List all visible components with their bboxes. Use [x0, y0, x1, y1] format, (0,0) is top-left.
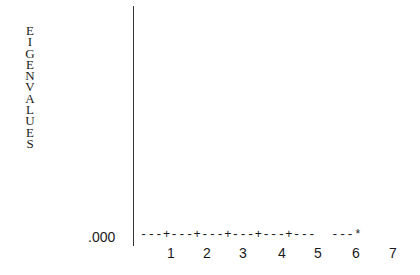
data-line: ---+---+---+---+---+--- ---* — [140, 228, 362, 242]
x-tick-label: 4 — [278, 245, 286, 261]
x-tick-label: 2 — [203, 245, 211, 261]
x-tick-label: 7 — [389, 245, 397, 261]
y-axis-line — [133, 6, 134, 246]
x-tick-label: 1 — [167, 245, 175, 261]
y-tick-label: .000 — [88, 229, 115, 245]
x-tick-label: 3 — [239, 245, 247, 261]
y-axis-label: E I G E N V A L U E S — [24, 25, 36, 149]
x-tick-label: 5 — [314, 245, 322, 261]
ylabel-letter: S — [24, 138, 36, 149]
x-tick-label: 6 — [352, 245, 360, 261]
